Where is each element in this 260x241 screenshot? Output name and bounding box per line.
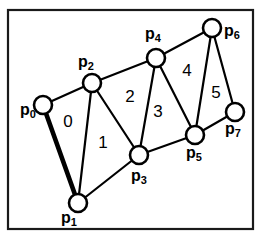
face-label-0: 0 <box>63 112 72 131</box>
vertex-p0 <box>34 96 52 114</box>
diagram-canvas: 012345 p0p1p2p3p4p5p6p7 <box>0 0 260 241</box>
face-label-5: 5 <box>211 83 220 102</box>
vertex-p7 <box>226 103 244 121</box>
face-label-3: 3 <box>153 102 162 121</box>
vertex-p6 <box>203 19 221 37</box>
vertex-p1 <box>69 194 87 212</box>
vertex-p4 <box>147 49 165 67</box>
triangulation-diagram: 012345 p0p1p2p3p4p5p6p7 <box>0 0 260 241</box>
vertex-p5 <box>186 126 204 144</box>
face-label-2: 2 <box>125 87 134 106</box>
vertex-p3 <box>130 146 148 164</box>
face-label-1: 1 <box>98 133 107 152</box>
face-label-4: 4 <box>182 61 191 80</box>
vertex-p2 <box>83 74 101 92</box>
